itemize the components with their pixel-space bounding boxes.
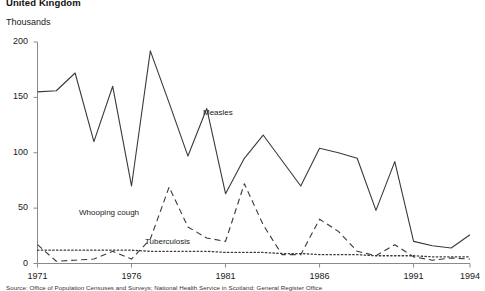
x-tick-label: 1976: [111, 271, 153, 281]
x-tick-label: 1971: [17, 271, 59, 281]
y-tick-label: 200: [2, 36, 28, 46]
y-tick-label: 100: [2, 147, 28, 157]
y-tick-marks: [34, 42, 38, 264]
y-tick-label: 50: [2, 202, 28, 212]
series-line-measles: [38, 51, 471, 248]
chart-series-group: [38, 51, 471, 261]
chart-axes: [34, 42, 471, 268]
x-tick-marks: [38, 264, 471, 268]
series-annotation-whooping-cough: Whooping cough: [79, 208, 139, 217]
y-tick-label: 0: [2, 258, 28, 268]
series-annotation-tuberculosis: Tuberculosis: [145, 237, 190, 246]
x-tick-label: 1991: [393, 271, 435, 281]
chart-source-footer: Source: Office of Population Censuses an…: [6, 284, 322, 291]
y-tick-label: 150: [2, 91, 28, 101]
series-annotation-measles: Measles: [203, 108, 233, 117]
x-tick-label: 1981: [205, 271, 247, 281]
x-tick-label: 1986: [299, 271, 341, 281]
x-tick-label: 1994: [449, 271, 485, 281]
